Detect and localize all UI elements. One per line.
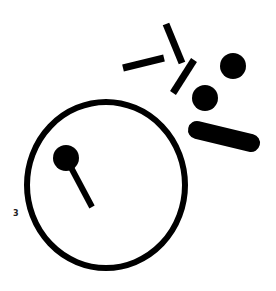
- bar-diagonal: [173, 60, 194, 93]
- dot-middle: [192, 85, 218, 111]
- number-label: 3: [13, 209, 19, 218]
- canvas: 3: [0, 0, 276, 291]
- pill-shape: [197, 130, 251, 143]
- bar-left: [123, 58, 164, 68]
- bar-upper: [166, 24, 182, 63]
- shape-drawing: [0, 0, 276, 291]
- big-circle-outline: [27, 102, 185, 268]
- hand-line: [66, 158, 92, 207]
- dot-right: [220, 53, 246, 79]
